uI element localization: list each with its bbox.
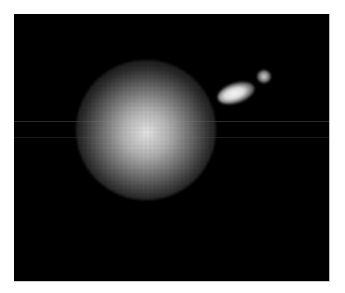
diffuse-cloud bbox=[76, 60, 216, 200]
cloud-grain bbox=[76, 60, 216, 200]
bright-blob bbox=[215, 78, 257, 109]
image-frame bbox=[14, 14, 330, 282]
faint-knot bbox=[257, 70, 271, 83]
